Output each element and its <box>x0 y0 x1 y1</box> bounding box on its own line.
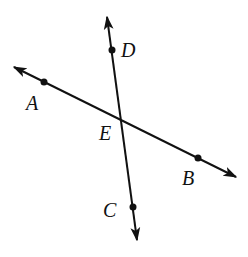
label-c: C <box>103 199 117 221</box>
label-a: A <box>24 92 39 114</box>
point-d-dot <box>109 47 116 54</box>
label-e: E <box>98 122 111 144</box>
label-b: B <box>182 167 194 189</box>
point-a-dot <box>41 79 48 86</box>
point-b-dot <box>195 155 202 162</box>
intersecting-lines-diagram: A B C D E <box>0 0 248 257</box>
label-d: D <box>120 39 136 61</box>
point-c-dot <box>130 204 137 211</box>
line-ab <box>14 67 236 177</box>
